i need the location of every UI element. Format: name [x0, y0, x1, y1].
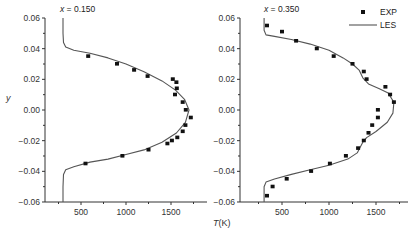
svg-text:−0.04: −0.04 — [18, 166, 40, 176]
exp-markers-left — [84, 54, 193, 165]
svg-text:−0.04: −0.04 — [213, 166, 235, 176]
svg-text:500: 500 — [74, 207, 88, 217]
svg-text:0.06: 0.06 — [23, 13, 40, 23]
les-line-left — [63, 18, 189, 202]
svg-text:0.06: 0.06 — [218, 13, 235, 23]
legend: EXP LES — [349, 7, 397, 30]
panel-title-left: x = 0.150 — [59, 4, 95, 14]
axes-right: 0.060.040.020.00−0.02−0.04−0.06500100015… — [213, 13, 408, 217]
svg-text:1500: 1500 — [367, 207, 386, 217]
svg-text:0.02: 0.02 — [23, 74, 40, 84]
y-axis-label: y — [5, 93, 11, 103]
les-line-right — [264, 18, 394, 202]
svg-text:1000: 1000 — [117, 207, 136, 217]
svg-text:1000: 1000 — [320, 207, 339, 217]
panel-title-right: x = 0.350 — [263, 4, 299, 14]
svg-text:0.00: 0.00 — [23, 105, 40, 115]
axes-left: 0.060.040.020.00−0.02−0.04−0.06500100015… — [18, 13, 207, 217]
svg-text:0.04: 0.04 — [23, 44, 40, 54]
svg-text:−0.02: −0.02 — [18, 136, 40, 146]
svg-text:−0.06: −0.06 — [18, 197, 40, 207]
legend-exp-marker-icon — [361, 10, 365, 14]
chart-panel-x0150: 0.060.040.020.00−0.02−0.04−0.06500100015… — [18, 4, 207, 217]
exp-markers-right — [265, 24, 396, 198]
svg-text:−0.02: −0.02 — [213, 136, 235, 146]
x-axis-label: T(K) — [213, 218, 231, 228]
svg-text:0.00: 0.00 — [218, 105, 235, 115]
svg-text:0.04: 0.04 — [218, 44, 235, 54]
svg-text:500: 500 — [275, 207, 289, 217]
chart-figure: 0.060.040.020.00−0.02−0.04−0.06500100015… — [0, 0, 409, 236]
svg-text:−0.06: −0.06 — [213, 197, 235, 207]
legend-les-label: LES — [380, 20, 396, 30]
chart-panel-x0350: 0.060.040.020.00−0.02−0.04−0.06500100015… — [213, 4, 408, 217]
legend-exp-label: EXP — [380, 7, 397, 17]
svg-text:0.02: 0.02 — [218, 74, 235, 84]
svg-text:1500: 1500 — [162, 207, 181, 217]
